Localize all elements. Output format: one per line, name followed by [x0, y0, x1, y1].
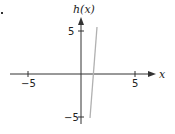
x-tick-label-pos5: 5 — [132, 78, 138, 89]
marker-dot — [1, 12, 3, 14]
x-axis-arrow-icon — [148, 71, 156, 77]
y-axis-arrow-icon — [78, 17, 84, 25]
y-axis-label: h(x) — [73, 3, 95, 16]
x-tick-label-neg5: −5 — [21, 78, 36, 89]
function-graph: x h(x) −5 5 5 −5 — [0, 0, 175, 134]
h-function-line — [90, 27, 97, 118]
y-tick-label-neg5: −5 — [64, 112, 79, 123]
x-axis-label: x — [159, 68, 166, 81]
y-tick-label-pos5: 5 — [68, 26, 74, 37]
